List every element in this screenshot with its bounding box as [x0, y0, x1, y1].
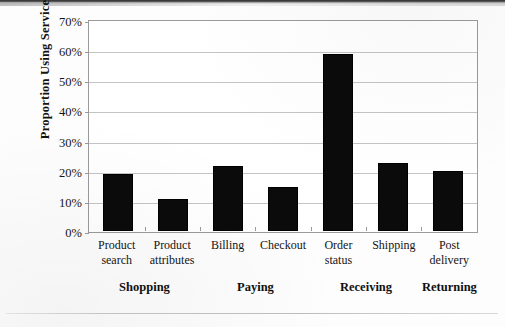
bar[interactable]: [323, 54, 353, 231]
category-label-line: Product: [144, 238, 199, 253]
x-axis-category-label: Billing: [200, 238, 255, 267]
y-axis-tick-label: 40%: [59, 104, 82, 119]
chart-page: Proportion Using Service 70%60%50%40%30%…: [0, 0, 505, 327]
category-label-line: delivery: [422, 253, 477, 268]
bar[interactable]: [158, 199, 188, 231]
bar-slot: [90, 22, 145, 231]
category-label-line: Post: [422, 238, 477, 253]
category-label-line: Billing: [200, 238, 255, 253]
plot-area: 70%60%50%40%30%20%10%0%: [88, 20, 478, 233]
category-label-line: Checkout: [255, 238, 310, 253]
y-axis-tick-label: 70%: [59, 14, 82, 29]
category-label-line: Order: [311, 238, 366, 253]
category-label-line: status: [311, 253, 366, 268]
x-axis-category-label: Checkout: [255, 238, 310, 267]
bar-slot: [145, 22, 200, 231]
bars-layer: [90, 22, 476, 231]
y-axis-tick-label: 60%: [59, 44, 82, 59]
bar[interactable]: [433, 171, 463, 231]
y-axis-tick-label: 10%: [59, 195, 82, 210]
x-axis-category-label: Orderstatus: [311, 238, 366, 267]
x-axis-category-label: Postdelivery: [422, 238, 477, 267]
x-axis-group-label: Shopping: [119, 280, 170, 295]
x-axis-category-label: Productattributes: [144, 238, 199, 267]
category-label-line: attributes: [144, 253, 199, 268]
x-axis-group-label: Returning: [422, 280, 477, 295]
y-axis-tick: [85, 52, 89, 53]
bar-slot: [421, 22, 476, 231]
y-axis-tick: [85, 173, 89, 174]
category-label-line: search: [89, 253, 144, 268]
y-axis-tick-label: 30%: [59, 135, 82, 150]
x-axis-category-label: Productsearch: [89, 238, 144, 267]
bar[interactable]: [268, 187, 298, 231]
y-axis-tick: [85, 143, 89, 144]
y-axis-tick: [85, 233, 89, 234]
bar[interactable]: [213, 166, 243, 231]
bar-slot: [255, 22, 310, 231]
y-axis-tick-label: 0%: [65, 225, 82, 240]
y-axis-tick: [85, 82, 89, 83]
bar-slot: [311, 22, 366, 231]
x-axis-group-label: Receiving: [340, 280, 392, 295]
bar[interactable]: [103, 174, 133, 231]
y-axis-title: Proportion Using Service: [38, 0, 53, 170]
category-label-line: Shipping: [366, 238, 421, 253]
y-axis-tick: [85, 112, 89, 113]
y-axis-tick: [85, 22, 89, 23]
x-axis-group-label: Paying: [237, 280, 274, 295]
page-bottom-rule: [6, 313, 498, 314]
bar-slot: [200, 22, 255, 231]
x-axis-category-labels: ProductsearchProductattributesBillingChe…: [89, 238, 477, 267]
y-axis-tick-label: 50%: [59, 74, 82, 89]
bar[interactable]: [378, 163, 408, 231]
y-axis-tick-label: 20%: [59, 165, 82, 180]
y-axis-tick: [85, 203, 89, 204]
category-label-line: Product: [89, 238, 144, 253]
x-axis-category-label: Shipping: [366, 238, 421, 267]
bar-slot: [366, 22, 421, 231]
scan-top-edge-shadow: [0, 3, 505, 6]
